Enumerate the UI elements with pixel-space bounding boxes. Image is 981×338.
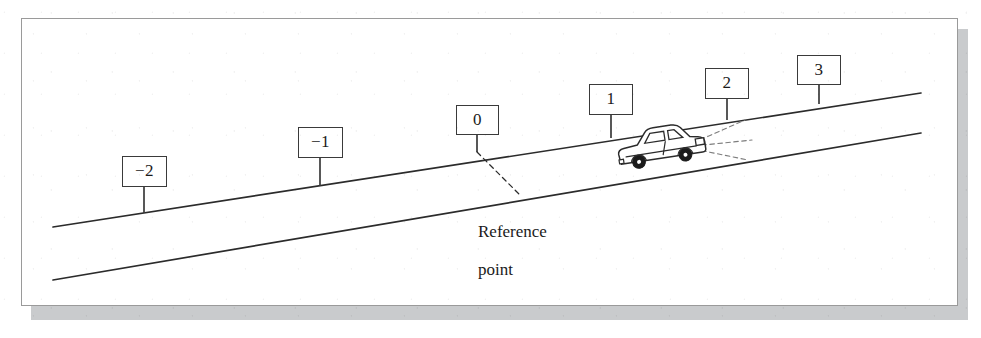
marker-sign-three[interactable]: 3 bbox=[797, 55, 841, 85]
marker-sign-zero[interactable]: 0 bbox=[456, 105, 499, 135]
car-body-outline bbox=[615, 120, 706, 164]
marker-label-three: 3 bbox=[815, 61, 824, 78]
reference-point-caption-line2: point bbox=[478, 260, 547, 279]
car-rear-bumper bbox=[619, 159, 624, 164]
marker-sign-two[interactable]: 2 bbox=[705, 68, 749, 99]
marker-label-one: 1 bbox=[607, 90, 616, 107]
marker-label-minus2: −2 bbox=[135, 162, 154, 179]
figure-root: −2 −1 0 1 2 3 Reference point bbox=[0, 0, 981, 338]
reference-point-caption-line1: Reference bbox=[478, 222, 547, 241]
marker-sign-minus2[interactable]: −2 bbox=[122, 156, 167, 187]
car-headlight bbox=[695, 138, 704, 146]
reference-point-caption: Reference point bbox=[478, 203, 547, 298]
marker-sign-minus1[interactable]: −1 bbox=[298, 127, 343, 158]
marker-label-zero: 0 bbox=[473, 111, 482, 128]
marker-sign-one[interactable]: 1 bbox=[589, 84, 633, 115]
marker-label-minus1: −1 bbox=[311, 133, 330, 150]
marker-label-two: 2 bbox=[723, 74, 732, 91]
